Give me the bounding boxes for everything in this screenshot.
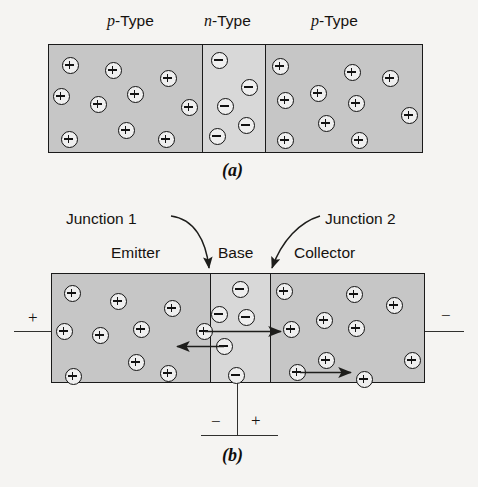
junction-2-leader-arrow [272,216,320,268]
junction-1-leader-arrow [171,216,209,268]
arrows-overlay [0,0,478,487]
figure-canvas: p-Type n-Type p-Type [0,0,478,487]
